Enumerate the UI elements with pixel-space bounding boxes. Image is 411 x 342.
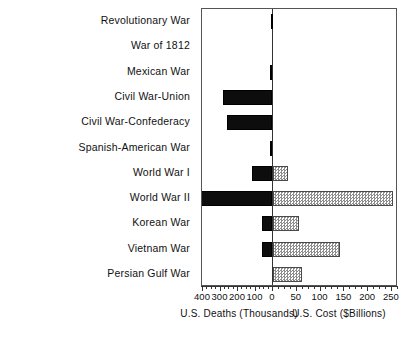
bar-deaths: [270, 141, 272, 156]
axis-tick-minor: [241, 286, 242, 289]
bar-cost: [273, 216, 299, 231]
category-label: Spanish-American War: [78, 142, 190, 153]
axis-tick-minor: [349, 286, 350, 289]
plot-area: [201, 8, 397, 286]
axis-tick-minor: [397, 286, 398, 289]
bar-deaths: [223, 90, 272, 105]
axis-tick-minor: [325, 286, 326, 289]
bar-cost: [273, 242, 340, 257]
axis-tick-label: 400: [194, 292, 210, 302]
axis-tick-minor: [379, 286, 380, 289]
axis-tick-minor: [373, 286, 374, 289]
bidirectional-bar-chart: Revolutionary WarWar of 1812Mexican WarC…: [0, 0, 411, 342]
axis-tick-minor: [314, 286, 315, 289]
axis-tick-label: 100: [247, 292, 263, 302]
category-label: World War I: [133, 167, 190, 178]
category-axis-labels: Revolutionary WarWar of 1812Mexican WarC…: [0, 8, 196, 286]
category-label: Revolutionary War: [101, 15, 190, 26]
axis-tick-minor: [308, 286, 309, 289]
axis-tick-minor: [302, 286, 303, 289]
category-label: Vietnam War: [128, 243, 190, 254]
bar-cost: [273, 191, 393, 206]
category-label: Mexican War: [127, 66, 190, 77]
axis-title-deaths: U.S. Deaths (Thousands): [180, 308, 297, 320]
category-label: World War II: [130, 192, 190, 203]
axis-tick-label: 200: [359, 292, 375, 302]
axis-tick-minor: [263, 286, 264, 289]
axis-tick-minor: [233, 286, 234, 289]
axis-tick-label: 150: [335, 292, 351, 302]
axis-tick-label: 0: [269, 292, 274, 302]
bar-deaths: [271, 14, 273, 29]
bar-cost: [273, 166, 288, 181]
axis-tick-minor: [224, 286, 225, 289]
bar-deaths: [262, 216, 272, 231]
category-label: War of 1812: [131, 40, 190, 51]
value-axis: 400300200100050100150200250U.S. Deaths (…: [201, 286, 397, 342]
bar-deaths: [201, 191, 272, 206]
axis-tick-minor: [250, 286, 251, 289]
axis-tick-label: 50: [290, 292, 301, 302]
axis-tick-minor: [246, 286, 247, 289]
axis-tick-minor: [206, 286, 207, 289]
axis-tick-minor: [331, 286, 332, 289]
axis-tick-label: 300: [212, 292, 228, 302]
axis-tick-minor: [259, 286, 260, 289]
axis-tick-minor: [211, 286, 212, 289]
category-label: Civil War-Union: [114, 91, 190, 102]
axis-tick-label: 100: [312, 292, 328, 302]
category-label: Korean War: [132, 217, 190, 228]
axis-tick-minor: [268, 286, 269, 289]
bar-deaths: [262, 242, 272, 257]
axis-tick-minor: [278, 286, 279, 289]
bar-deaths: [252, 166, 272, 181]
category-label: Persian Gulf War: [107, 268, 190, 279]
axis-tick-minor: [228, 286, 229, 289]
axis-tick-minor: [355, 286, 356, 289]
axis-tick-minor: [290, 286, 291, 289]
bar-deaths: [227, 115, 273, 130]
category-label: Civil War-Confederacy: [81, 116, 190, 127]
axis-tick-minor: [361, 286, 362, 289]
axis-tick-minor: [385, 286, 386, 289]
axis-tick-label: 200: [229, 292, 245, 302]
axis-tick-label: 250: [383, 292, 399, 302]
axis-title-cost: U.S. Cost ($Billions): [292, 308, 386, 320]
bar-cost: [273, 267, 302, 282]
axis-tick-minor: [337, 286, 338, 289]
axis-tick-minor: [215, 286, 216, 289]
axis-tick-minor: [284, 286, 285, 289]
bar-deaths: [270, 65, 272, 80]
